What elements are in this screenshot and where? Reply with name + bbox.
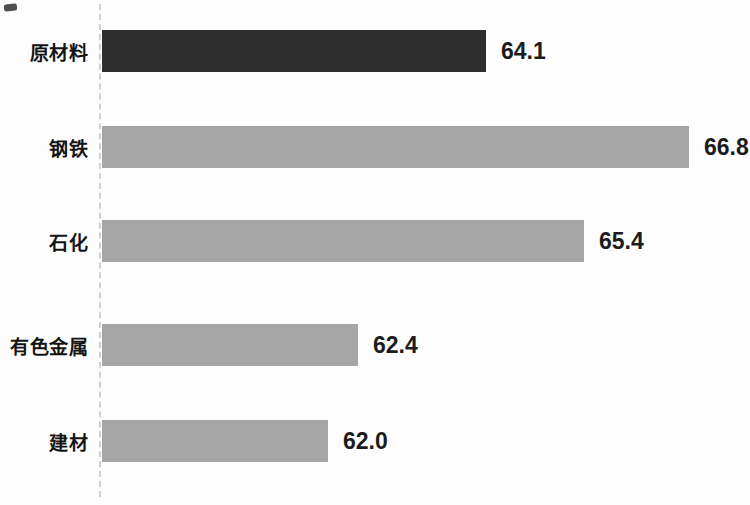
category-label: 钢铁 (0, 126, 88, 168)
value-label: 62.4 (373, 332, 418, 359)
category-label: 原材料 (0, 30, 88, 72)
category-label: 石化 (0, 220, 88, 262)
chart-row: 建材62.0 (0, 420, 750, 462)
category-label: 建材 (0, 420, 88, 462)
chart-row: 石化65.4 (0, 220, 750, 262)
bar (102, 126, 689, 168)
bar (102, 220, 584, 262)
value-label: 62.0 (343, 428, 388, 455)
bar (102, 324, 358, 366)
value-label: 66.8 (704, 134, 749, 161)
chart-row: 原材料64.1 (0, 30, 750, 72)
value-label: 64.1 (501, 38, 546, 65)
chart-row: 钢铁66.8 (0, 126, 750, 168)
category-label: 有色金属 (0, 324, 88, 366)
value-label: 65.4 (599, 228, 644, 255)
scan-artifact (4, 3, 18, 11)
chart-row: 有色金属62.4 (0, 324, 750, 366)
bar (102, 30, 486, 72)
bar (102, 420, 328, 462)
bar-chart-figure: 原材料64.1钢铁66.8石化65.4有色金属62.4建材62.0 (0, 0, 750, 505)
